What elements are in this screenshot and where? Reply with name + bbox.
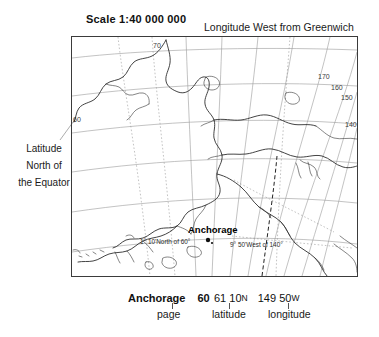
meridian-label-150: 150 [341,94,353,101]
meridian-label-160: 160 [331,84,343,91]
caption-latitude-hemisphere: N [242,293,248,303]
caption-label-latitude: latitude [212,308,246,320]
caption-place-name: Anchorage [128,292,185,304]
meridian-label-140: 140 [345,121,357,128]
caption-latitude-minutes: 10 [229,292,241,304]
parallel-label-70: 70 [153,42,161,49]
caption-latitude-degrees: 61 [214,292,226,304]
coastline-southeast [217,174,357,276]
caption-longitude-minutes: 50 [279,292,291,304]
meridian-label-170: 170 [318,73,330,80]
coastline-alaska-mainland [74,40,222,248]
latitude-offset-annotation: 1° 10'North of 60° [140,238,191,245]
caption-label-longitude: longitude [268,308,311,320]
caption-coordinates: 61 10N149 50W [214,292,299,304]
alaska-map-figure: 70 60 170 160 150 140 [0,0,379,337]
longitude-offset-annotation: 9° 50'West of 140° [230,241,283,248]
caption-longitude-hemisphere: W [291,293,299,303]
gazetteer-map-page: Scale 1:40 000 000 Longitude West from G… [0,0,379,337]
anchorage-map-label: Anchorage [188,224,238,235]
graticule-labels: 70 60 170 160 150 140 [73,42,357,128]
caption-longitude-degrees: 149 [258,292,276,304]
coastline-canada-north [214,115,357,179]
caption-entry: Anchorage60 [128,292,210,304]
anchorage-city-dot [206,238,210,242]
caption-page-number: 60 [197,292,209,304]
anchorage-city-dot-secondary [211,242,213,244]
coastline-aleutian-chain [73,226,177,269]
